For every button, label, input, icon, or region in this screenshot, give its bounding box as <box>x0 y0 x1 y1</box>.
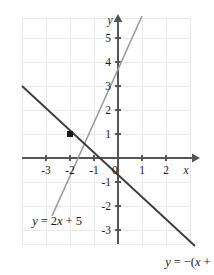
y-tick-label-1: 1 <box>105 128 111 140</box>
eq1-y: y <box>30 214 38 228</box>
equation-label-line1: y=2x+ 5 <box>4 214 104 228</box>
svg-text:y=2x+ 5: y=2x+ 5 <box>4 214 104 228</box>
y-tick-label--1: -1 <box>101 176 111 188</box>
x-tick-label--1: -1 <box>89 164 99 176</box>
eq2-negation: −( <box>184 255 195 269</box>
eq2-y: y <box>163 255 171 269</box>
eq2-equals: = <box>174 255 181 269</box>
y-tick-label-5: 5 <box>105 32 111 44</box>
y-tick-label-4: 4 <box>105 56 111 68</box>
eq1-equals: = <box>41 214 48 228</box>
x-tick-label--3: -3 <box>41 164 51 176</box>
graph-figure: -3 -2 -1 1 2 0 5 4 3 2 1 -1 -2 -3 x y y=… <box>0 0 214 275</box>
x-tick-label--2: -2 <box>65 164 75 176</box>
x-axis-label: x <box>182 164 189 176</box>
eq1-constant: + 5 <box>66 214 82 228</box>
origin-label: 0 <box>112 164 118 176</box>
coordinate-plane: -3 -2 -1 1 2 0 5 4 3 2 1 -1 -2 -3 x y y=… <box>0 0 214 275</box>
y-tick-label-2: 2 <box>105 104 111 116</box>
x-tick-label-2: 2 <box>163 164 169 176</box>
intersection-point-marker <box>67 131 73 137</box>
y-tick-label-3: 3 <box>105 80 111 92</box>
x-tick-label-1: 1 <box>139 164 145 176</box>
eq1-x: x <box>56 214 63 228</box>
eq2-x: x <box>194 255 201 269</box>
y-tick-label--2: -2 <box>101 200 111 212</box>
eq2-constant: + 1) <box>204 255 214 269</box>
y-axis-label: y <box>106 14 113 27</box>
